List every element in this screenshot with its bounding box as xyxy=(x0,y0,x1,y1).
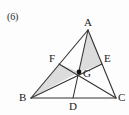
vertex-label-B: B xyxy=(19,92,26,103)
figure-container: (6) A B C D E F G xyxy=(0,0,129,115)
point-label-E: E xyxy=(104,53,111,64)
point-label-G: G xyxy=(83,68,91,79)
vertex-label-A: A xyxy=(84,17,92,28)
vertex-label-C: C xyxy=(118,92,125,103)
point-dot-G xyxy=(77,70,82,75)
point-label-F: F xyxy=(49,53,55,64)
point-label-D: D xyxy=(69,101,77,112)
